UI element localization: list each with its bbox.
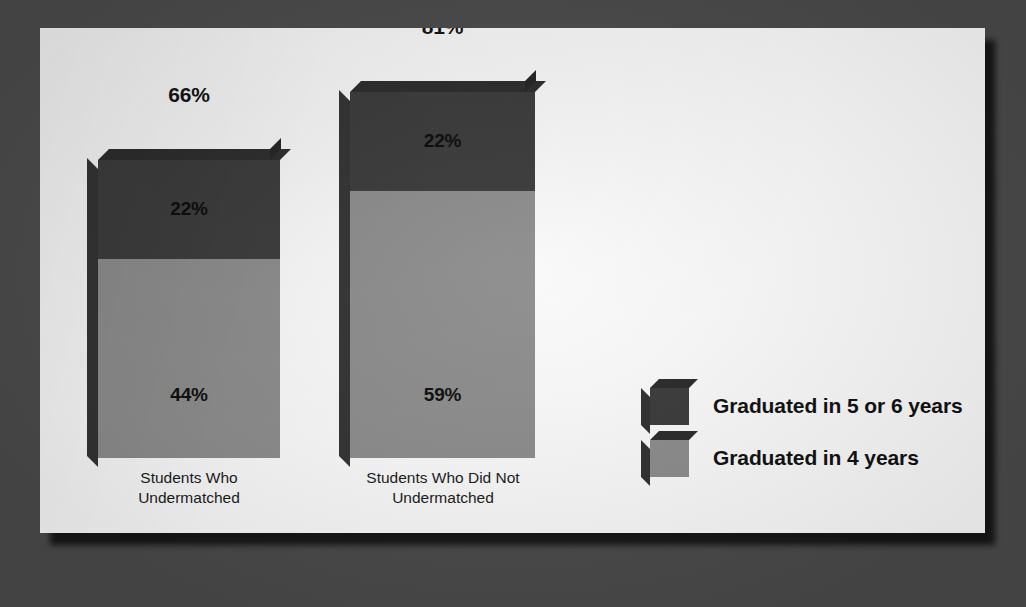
swatch-side-face [641,388,650,434]
swatch-front-face [650,440,689,477]
segment-value-label: 44% [98,384,280,406]
segment-graduated-5-or-6-years[interactable]: 22% [98,160,280,259]
bar-total-label: 81% [350,28,535,39]
legend-item-graduated-4-years[interactable]: Graduated in 4 years [640,432,963,484]
segment-graduated-4-years[interactable]: 59% [350,191,535,458]
bar-left-side-face [339,90,350,467]
legend-label: Graduated in 5 or 6 years [713,394,963,418]
chart-legend: Graduated in 5 or 6 years Graduated in 4… [640,380,963,484]
legend-swatch-dark-icon [650,388,689,425]
category-label-not-undermatched: Students Who Did Not Undermatched [312,468,574,508]
bar-top-face [350,81,546,92]
stacked-column: 22% 59% [350,92,535,458]
swatch-top-face [650,431,698,440]
segment-value-label: 22% [98,198,280,220]
plot-area: 66% 22% 44% Students Who Undermatched 8 [40,28,985,533]
bar-total-label: 66% [98,83,280,107]
bar-group-not-undermatched[interactable]: 81% 22% 59% [350,60,535,458]
legend-label: Graduated in 4 years [713,446,919,470]
stacked-column: 22% 44% [98,160,280,458]
segment-graduated-5-or-6-years[interactable]: 22% [350,92,535,191]
segment-value-label: 22% [350,130,535,152]
category-label-undermatched: Students Who Undermatched [68,468,310,508]
swatch-top-face [650,379,698,388]
swatch-side-face [641,440,650,486]
bar-top-face [98,149,291,160]
bar-left-side-face [87,158,98,467]
legend-item-graduated-5-or-6-years[interactable]: Graduated in 5 or 6 years [640,380,963,432]
legend-swatch-light-icon [650,440,689,477]
segment-graduated-4-years[interactable]: 44% [98,259,280,458]
page-background: 66% 22% 44% Students Who Undermatched 8 [0,0,1026,607]
chart-panel: 66% 22% 44% Students Who Undermatched 8 [40,28,985,533]
segment-value-label: 59% [350,384,535,406]
bar-group-undermatched[interactable]: 66% 22% 44% [98,128,280,458]
swatch-front-face [650,388,689,425]
